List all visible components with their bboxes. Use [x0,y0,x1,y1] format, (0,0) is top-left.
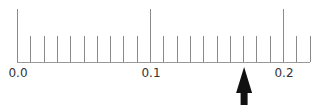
up-arrow-icon [236,67,252,105]
tick-label: 0.1 [141,66,160,80]
ruler-ticks [18,9,311,62]
tick-label: 0.2 [274,66,293,80]
tick-label: 0.0 [8,66,27,80]
number-line-ruler [0,0,317,105]
